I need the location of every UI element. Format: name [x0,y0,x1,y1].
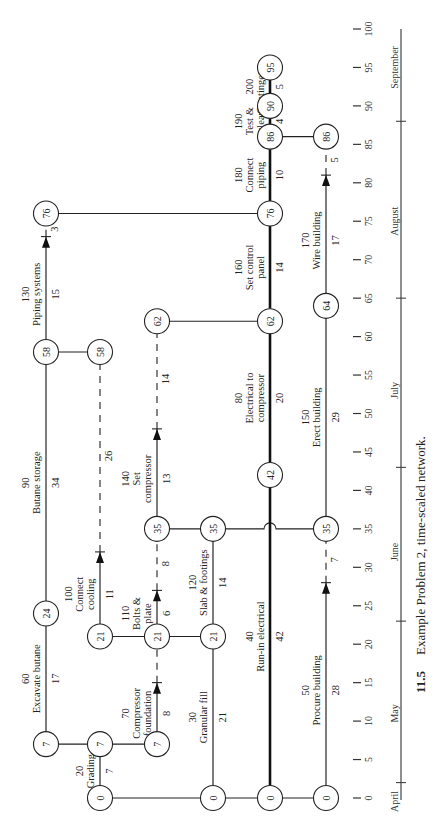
activity-duration: 11 [104,589,115,599]
activity-number: 30 [187,712,198,723]
time-tick-label: 0 [363,796,374,801]
activity-170: 5170Wire building17 [300,149,341,293]
activity-name: Grading [85,753,96,788]
event-time: 0 [321,796,332,801]
time-tick-label: 50 [363,409,374,419]
activity-140: 14140Setcompressor13 [120,334,172,517]
figure-number: 11.5 [413,670,428,693]
event-time: 76 [41,209,52,219]
activity-name: panel [255,256,266,279]
activity-duration: 6 [161,611,172,616]
activity-number: 60 [20,674,31,685]
activity-name: Procure building [311,654,322,725]
event-node: 7 [34,732,59,757]
node-connectors [46,137,326,798]
event-time: 58 [41,347,52,357]
activity-duration: 15 [50,289,61,300]
time-scaled-network-figure: 20Grading760Excavate butane1770Compresso… [0,0,439,828]
event-node: 24 [34,601,59,626]
event-node: 64 [314,293,339,318]
arrowhead-icon [153,683,161,694]
activity-duration: 29 [330,412,341,423]
event-time: 35 [208,524,219,534]
arrowhead-icon [153,590,161,601]
time-tick-label: 90 [363,101,374,111]
activity-duration: 10 [274,170,285,181]
event-time: 86 [265,132,276,142]
event-time: 35 [152,524,163,534]
event-time: 64 [321,301,332,311]
event-time: 86 [321,132,332,142]
event-time: 21 [95,632,106,642]
activity-name: Run-in electrical [255,601,266,671]
time-tick-label: 85 [363,139,374,149]
activity-number: 90 [20,477,31,488]
event-node: 35 [201,516,226,541]
arrowhead-icon [322,175,330,186]
activity-110: 8110Bolts &plate6 [120,541,172,630]
activity-name: foundation [142,690,153,736]
activity-number: 170 [300,233,311,249]
event-nodes: 0000777242121213535354258586262647676868… [34,55,339,811]
activity-duration: 14 [217,577,228,588]
activity-name: Set [131,472,142,486]
event-node: 62 [258,309,283,334]
event-time: 42 [265,470,276,480]
activity-70: 70Compressorfoundation8 [120,649,172,739]
event-node: 35 [314,516,339,541]
float-value: 5 [329,157,340,162]
activity-duration: 20 [274,393,285,404]
event-time: 21 [208,632,219,642]
activity-name: Compressor [131,688,142,739]
activity-duration: 42 [274,631,285,642]
activity-duration: 13 [161,474,172,485]
time-tick-label: 45 [363,447,374,457]
activity-50: 750Procure building28 [300,541,341,785]
activity-name: Connect [244,158,255,193]
event-node: 0 [88,786,113,811]
activity-arrows: 20Grading760Excavate butane1770Compresso… [20,55,341,788]
event-node: 35 [145,516,170,541]
event-node: 58 [88,339,113,364]
activity-100: 26100Connectcooling11 [63,364,115,624]
time-tick-label: 5 [363,757,374,762]
activity-duration: 21 [217,712,228,723]
figure-caption: 11.5 Example Problem 2, time-scaled netw… [413,436,428,693]
event-time: 76 [265,209,276,219]
time-axis: 0510152025303540455055606570758085909510… [353,22,374,801]
event-node: 21 [145,624,170,649]
activity-number: 70 [120,708,131,719]
activity-name: Piping systems [31,263,42,326]
activity-name: plate [142,603,153,624]
activity-name: Granular fill [198,691,209,743]
float-value: 14 [160,373,171,384]
time-tick-label: 10 [363,716,374,726]
caption-text: Example Problem 2, time-scaled network. [413,436,428,655]
arrowhead-icon [322,583,330,594]
activity-name: Slab & footings [198,549,209,616]
month-label: June [389,542,400,561]
month-label: September [389,45,400,88]
activity-duration: 7 [104,768,115,773]
float-value: 8 [160,561,171,566]
event-node: 90 [258,93,283,118]
float-value: 7 [329,557,340,562]
event-time: 62 [152,316,163,326]
event-node: 0 [258,786,283,811]
activity-number: 130 [20,286,31,302]
event-time: 7 [95,742,106,747]
activity-duration: 14 [274,261,285,272]
activity-duration: 5 [274,84,285,89]
time-tick-label: 35 [363,524,374,534]
activity-name: cooling [85,578,96,610]
activity-name: Excavate butane [31,644,42,713]
activity-name: compressor [142,454,153,503]
activity-number: 200 [244,79,255,95]
connector-line [157,523,326,529]
event-time: 0 [208,796,219,801]
activity-name: compressor [255,373,266,422]
activity-number: 180 [233,167,244,183]
month-axis: AprilMayJuneJulyAugustSeptember [389,29,406,812]
time-tick-label: 25 [363,601,374,611]
arrowhead-icon [153,429,161,440]
